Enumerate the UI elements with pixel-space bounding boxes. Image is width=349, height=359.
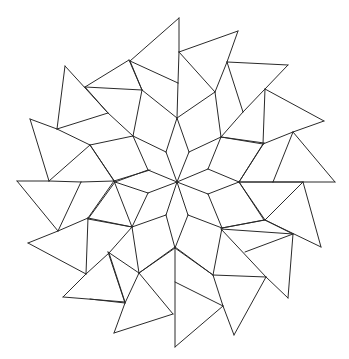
segment (57, 113, 108, 129)
segment (221, 229, 293, 234)
segment (175, 282, 223, 306)
ring-quad-1-edge (133, 90, 142, 136)
segment (85, 87, 108, 113)
center-rhombus-7-edge (148, 170, 177, 182)
segment (17, 181, 58, 231)
line-segments (17, 18, 335, 347)
ring-quad-6-edge (132, 227, 139, 273)
segment (245, 234, 293, 252)
segment (130, 18, 179, 61)
segment (179, 31, 238, 52)
center-rhombus-5-edge (175, 215, 188, 248)
segment (175, 306, 223, 347)
center-rhombus-4-edge (177, 182, 188, 215)
segment (108, 252, 139, 273)
segment (213, 275, 266, 277)
segment (108, 113, 133, 136)
center-rhombus-3-edge (177, 182, 208, 194)
segment (288, 234, 293, 298)
segment (139, 273, 173, 314)
center-rhombus-1-edge (166, 152, 177, 182)
segment (239, 144, 263, 182)
segment (114, 303, 125, 333)
segment (266, 277, 288, 298)
center-rhombus-1-edge (166, 118, 177, 152)
segment (28, 243, 86, 274)
segment (86, 218, 88, 274)
segment (222, 220, 265, 228)
segment (49, 145, 90, 181)
ring-quad-2-edge (215, 92, 221, 137)
center-rhombus-3-edge (208, 182, 239, 194)
segment (293, 132, 335, 182)
segment (215, 62, 227, 92)
ring-quad-8-edge (90, 136, 133, 145)
ring-quad-5-edge (213, 228, 222, 275)
segment (114, 314, 173, 333)
segment (63, 297, 125, 302)
center-rhombus-6-edge (148, 182, 177, 193)
segment (85, 60, 129, 87)
segment (221, 112, 243, 137)
segment (88, 181, 114, 218)
segment (265, 65, 288, 89)
segment (239, 182, 265, 220)
segment (139, 247, 175, 273)
segment (178, 52, 179, 83)
segment (179, 52, 215, 92)
segment (114, 181, 132, 227)
segment (30, 119, 49, 181)
segment (58, 182, 81, 231)
segment (28, 231, 58, 243)
segment (227, 62, 288, 65)
segment (221, 229, 266, 277)
center-rhombus-4-edge (188, 215, 222, 228)
segment (63, 274, 86, 297)
segment (234, 277, 266, 335)
center-rhombus-3-edge (208, 169, 239, 182)
center-rhombus-8-edge (133, 136, 148, 170)
segment (177, 83, 178, 118)
segment (293, 121, 324, 132)
segment (58, 218, 88, 231)
segment (265, 182, 303, 220)
segment (227, 62, 243, 112)
rosette-diagram (0, 0, 349, 359)
segment (109, 253, 125, 302)
segment (57, 129, 90, 145)
center-rhombus-7-edge (115, 182, 148, 193)
center-rhombus-5-edge (166, 182, 177, 215)
segment (85, 87, 142, 90)
segment (223, 306, 234, 335)
segment (221, 137, 263, 144)
segment (30, 119, 57, 129)
segment (273, 132, 293, 182)
segment (90, 145, 114, 181)
segment (243, 89, 265, 112)
segment (109, 227, 132, 253)
segment (303, 182, 321, 247)
segment (49, 181, 81, 182)
segment (81, 181, 114, 182)
segment (125, 273, 139, 303)
ring-quad-2-edge (177, 92, 215, 118)
segment (114, 170, 150, 181)
ring-quad-1-edge (142, 90, 177, 118)
segment (86, 253, 109, 274)
center-rhombus-5-edge (166, 215, 175, 248)
segment (88, 218, 132, 227)
segment (129, 60, 142, 90)
ring-quad-7-edge (88, 182, 115, 219)
center-rhombus-1-edge (177, 118, 189, 152)
center-rhombus-4-edge (208, 194, 222, 228)
segment (227, 31, 238, 62)
segment (57, 66, 65, 129)
center-rhombus-8-edge (133, 136, 166, 152)
segment (175, 247, 213, 275)
segment (263, 89, 265, 144)
segment (265, 89, 324, 121)
